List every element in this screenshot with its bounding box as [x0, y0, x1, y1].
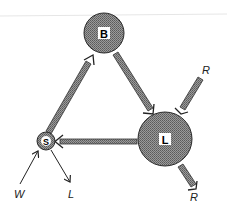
label-r-out: R — [190, 191, 198, 203]
node-b: B — [84, 13, 124, 53]
node-s-label: S — [43, 137, 49, 147]
arrow-s-to-l-out — [51, 150, 70, 182]
arrow-l-to-s — [55, 135, 137, 148]
arrow-b-to-l — [113, 52, 154, 114]
arrow-s-to-b — [46, 55, 94, 134]
node-l-label: L — [162, 134, 169, 146]
node-l: L — [138, 112, 192, 166]
label-r-in: R — [202, 64, 210, 76]
label-l-out: L — [68, 188, 74, 200]
arrow-l-to-r-out — [178, 164, 197, 190]
node-s: S — [37, 132, 55, 150]
arrow-w-to-s — [20, 151, 38, 184]
node-b-label: B — [100, 28, 108, 40]
cycle-diagram: B L S R R W L — [0, 0, 227, 212]
label-w-in: W — [14, 188, 26, 200]
arrow-r-into-l — [175, 77, 203, 114]
